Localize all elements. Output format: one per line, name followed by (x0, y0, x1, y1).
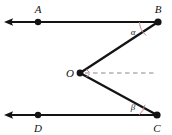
geometry-figure: A B O C D α β (0, 0, 172, 135)
point-B-dot (154, 18, 161, 25)
alpha-angle-label: α (131, 27, 136, 37)
point-O-label: O (66, 67, 74, 79)
segment-OB (80, 22, 158, 73)
point-C-label: C (153, 122, 161, 134)
geometry-canvas: A B O C D α β (0, 0, 172, 135)
beta-angle-label: β (130, 102, 136, 112)
point-B-label: B (155, 3, 162, 15)
segment-OC (80, 73, 157, 115)
point-O-dot (77, 70, 84, 77)
ray-AB (4, 18, 158, 26)
point-C-dot (153, 111, 160, 118)
point-A-label: A (34, 3, 42, 15)
point-A-dot (35, 19, 41, 25)
point-D-dot (35, 112, 41, 118)
ray-DC (4, 111, 157, 119)
point-D-label: D (33, 122, 42, 134)
